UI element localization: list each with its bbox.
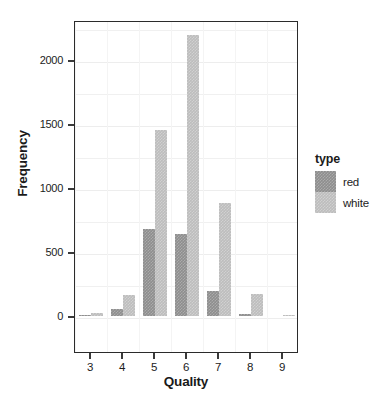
bar-white-3 (91, 313, 103, 316)
bar-red-3 (79, 315, 91, 316)
x-tick-label: 3 (78, 361, 102, 373)
x-tick-label: 5 (142, 361, 166, 373)
y-tick-label: 1000 (40, 182, 63, 194)
bar-white-8 (251, 294, 263, 316)
y-tick-label: 0 (57, 310, 63, 322)
x-tick-mark (89, 353, 91, 359)
bar-white-6 (187, 35, 199, 316)
x-tick-label: 4 (110, 361, 134, 373)
legend: type redwhite (315, 152, 389, 213)
legend-items: redwhite (315, 171, 389, 213)
legend-item-white[interactable]: white (315, 192, 389, 213)
bar-red-7 (207, 291, 219, 316)
bar-red-6 (175, 234, 187, 316)
bar-red-8 (239, 314, 251, 316)
x-tick-label: 9 (270, 361, 294, 373)
legend-label-red: red (343, 176, 359, 188)
x-tick-mark (153, 353, 155, 359)
y-tick-label: 1500 (40, 118, 63, 130)
x-tick-mark (185, 353, 187, 359)
x-tick-mark (121, 353, 123, 359)
bar-white-9 (283, 315, 295, 316)
x-tick-label: 7 (206, 361, 230, 373)
bar-white-7 (219, 203, 231, 316)
bar-series-group (75, 22, 297, 352)
x-axis-title: Quality (74, 374, 298, 389)
x-tick-mark (217, 353, 219, 359)
x-tick-label: 8 (238, 361, 262, 373)
legend-swatch-white (315, 192, 336, 213)
legend-label-white: white (343, 197, 369, 209)
bar-white-4 (123, 295, 135, 316)
x-tick-mark (249, 353, 251, 359)
y-axis-title: Frequency (15, 109, 30, 219)
chart-figure: Frequency 0500100015002000 3456789 Quali… (0, 0, 392, 401)
x-tick-label: 6 (174, 361, 198, 373)
bar-red-5 (143, 229, 155, 316)
y-tick-label: 500 (46, 246, 63, 258)
bar-red-4 (111, 309, 123, 316)
x-tick-mark (281, 353, 283, 359)
legend-swatch-red (315, 171, 336, 192)
legend-item-red[interactable]: red (315, 171, 389, 192)
y-tick-label: 2000 (40, 54, 63, 66)
legend-title: type (315, 152, 389, 166)
bar-white-5 (155, 130, 167, 316)
plot-panel (74, 21, 298, 353)
